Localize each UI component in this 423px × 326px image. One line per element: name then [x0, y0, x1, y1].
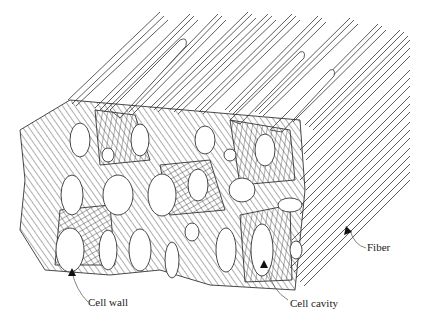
- label-fiber: Fiber: [367, 241, 390, 253]
- label-cell-cavity: Cell cavity: [290, 297, 338, 309]
- wood-cell-diagram: [0, 0, 423, 326]
- label-cell-wall: Cell wall: [88, 296, 128, 308]
